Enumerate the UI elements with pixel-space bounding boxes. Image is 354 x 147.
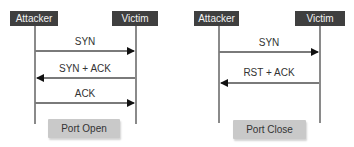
message-label-rst-ack: RST + ACK (219, 67, 319, 78)
arrowhead-right-icon (311, 48, 319, 56)
lifeline-victim (319, 26, 321, 123)
arrow-syn (219, 51, 318, 53)
arrowhead-left-icon (220, 79, 228, 87)
actor-attacker: Attacker (194, 11, 239, 26)
arrow-rst-ack (221, 82, 319, 84)
actor-victim: Victim (295, 11, 345, 26)
diagram-port-close: Attacker Victim SYN RST + ACK Port Close (0, 0, 354, 147)
result-port-close: Port Close (233, 120, 306, 139)
message-label-syn: SYN (219, 37, 319, 48)
